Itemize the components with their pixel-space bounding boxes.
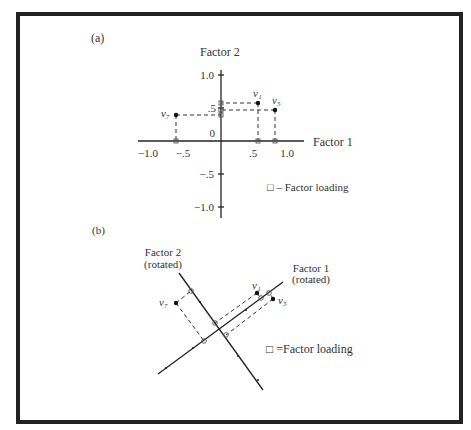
y-tick-label: −1.0 [194, 201, 214, 213]
panel-b-label: (b) [92, 224, 105, 237]
panel-b-legend: □ =Factor loading [266, 342, 353, 356]
panel-a-y-axis-title: Factor 2 [200, 45, 240, 59]
y-tick-label: 1.0 [200, 69, 214, 81]
panel-a-x-axis-title: Factor 1 [313, 135, 353, 149]
y-tick-label: −.5 [200, 168, 215, 180]
x-tick-label: 1.0 [280, 147, 294, 159]
factor2-rotated-subtitle: (rotated) [144, 258, 182, 271]
x-tick-label: .5 [249, 147, 258, 159]
rotated-point-v7 [174, 301, 178, 305]
x-tick-label: −1.0 [138, 147, 158, 159]
rotated-label-v1: v₁ [252, 279, 261, 291]
rotated-label-v5: v₅ [278, 294, 287, 306]
factor-diagram: .ax { stroke: #222; stroke-width: 1.3; f… [0, 0, 471, 430]
rotated-label-v7: v₇ [159, 296, 168, 308]
label-v5: v₅ [272, 94, 281, 106]
point-v7 [174, 113, 178, 117]
projection-lines [176, 103, 275, 141]
rotated-point-v5 [271, 297, 275, 301]
y-tick-label: 0 [210, 127, 216, 139]
factor1-rotated-axis [158, 282, 283, 374]
panel-a-legend: □ – Factor loading [267, 181, 349, 193]
panel-a-label: (a) [91, 31, 104, 45]
rotated-axis-ticks [165, 301, 259, 381]
rotated-factor-loading-markers [189, 289, 272, 344]
label-v7: v₇ [161, 107, 170, 119]
y-tick-label: .5 [208, 102, 217, 114]
panel-a: (a) Factor 2 1.0 .5 0 −.5 −1.0 −1.0 −.5 … [91, 31, 353, 218]
point-v5 [273, 108, 277, 112]
x-axis-ticks: −1.0 −.5 .5 1.0 [138, 147, 294, 159]
x-tick-label: −.5 [176, 147, 191, 159]
factor2-rotated-axis [179, 273, 263, 390]
point-v1 [256, 101, 260, 105]
factor1-rotated-subtitle: (rotated) [292, 273, 330, 286]
rotated-point-v1 [255, 291, 259, 295]
factor2-rotated-title: Factor 2 [145, 246, 181, 258]
label-v1: v₁ [253, 87, 262, 99]
factor-loading-markers [174, 101, 277, 143]
panel-b: (b) Factor 2 (rotated) Factor 1 (rotated… [92, 224, 353, 390]
